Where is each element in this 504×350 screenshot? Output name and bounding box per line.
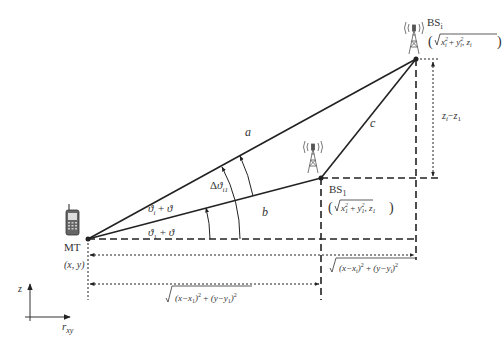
axis-label-z: z (17, 283, 22, 294)
line-b (88, 178, 321, 239)
diagram-canvas: a b c MT (x, y) BS1 ( x21 + y21, z1 ) BS… (0, 0, 504, 350)
dist-i-label: (x−xi)2 + (y−yi)2 (330, 258, 416, 274)
angle-label-theta-i: ϑi + ϑ (148, 202, 173, 217)
axes-legend (25, 284, 70, 321)
bs1-label: BS1 (329, 183, 346, 198)
bsi-label: BSi (427, 16, 443, 31)
svg-text:x21 + y21, z1: x21 + y21, z1 (340, 202, 376, 214)
bsi-point (414, 57, 419, 62)
mt-coords: (x, y) (64, 259, 85, 271)
svg-text:x2i + y2i, zi: x2i + y2i, zi (440, 36, 472, 48)
height-diff-label: zi−z1 (441, 110, 461, 123)
bs1-coords: ( x21 + y21, z1 ) (328, 200, 394, 216)
bsi-tower-icon (405, 22, 424, 54)
line-c (321, 59, 416, 178)
angle-label-delta: Δϑi1 (210, 179, 228, 194)
mt-label: MT (64, 241, 81, 253)
bs1-tower-icon (304, 141, 323, 173)
dist-1-label: (x−x1)2 + (y−y1)2 (166, 286, 252, 304)
angle-arc-theta1 (206, 208, 210, 239)
angle-arc-delta (240, 156, 253, 196)
mt-point (86, 237, 91, 242)
svg-text:(: ( (428, 34, 433, 50)
edge-label-a: a (245, 125, 251, 139)
axis-label-rxy: rxy (62, 320, 74, 335)
bs1-point (319, 176, 324, 181)
svg-text:(x−xi)2 + (y−yi)2: (x−xi)2 + (y−yi)2 (339, 262, 398, 274)
svg-text:(x−x1)2 + (y−y1)2: (x−x1)2 + (y−y1)2 (175, 292, 237, 304)
svg-text:): ) (497, 34, 502, 50)
edge-label-b: b (262, 205, 268, 219)
edge-label-c: c (370, 116, 376, 130)
svg-text:(: ( (328, 200, 333, 216)
svg-text:): ) (389, 200, 394, 216)
bsi-coords: ( x2i + y2i, zi ) (428, 34, 502, 50)
mobile-phone-icon (66, 204, 79, 235)
